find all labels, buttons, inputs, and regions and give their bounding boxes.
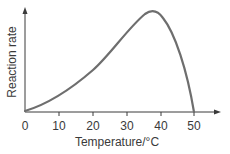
x-tick-label: 0 bbox=[22, 119, 29, 133]
y-axis-arrow-icon bbox=[23, 7, 28, 14]
y-axis-title: Reaction rate bbox=[5, 26, 19, 98]
x-axis-title: Temperature/°C bbox=[75, 135, 159, 149]
x-tick-label: 50 bbox=[187, 119, 201, 133]
x-tick-label: 30 bbox=[120, 119, 134, 133]
reaction-rate-curve bbox=[25, 11, 194, 112]
x-tick-label: 20 bbox=[86, 119, 100, 133]
x-tick-label: 10 bbox=[52, 119, 66, 133]
x-axis-arrow-icon bbox=[214, 110, 221, 115]
reaction-rate-chart: 0 10 20 30 40 50 Temperature/°C Reaction… bbox=[0, 0, 230, 154]
x-tick-label: 40 bbox=[154, 119, 168, 133]
x-ticks bbox=[59, 112, 194, 116]
